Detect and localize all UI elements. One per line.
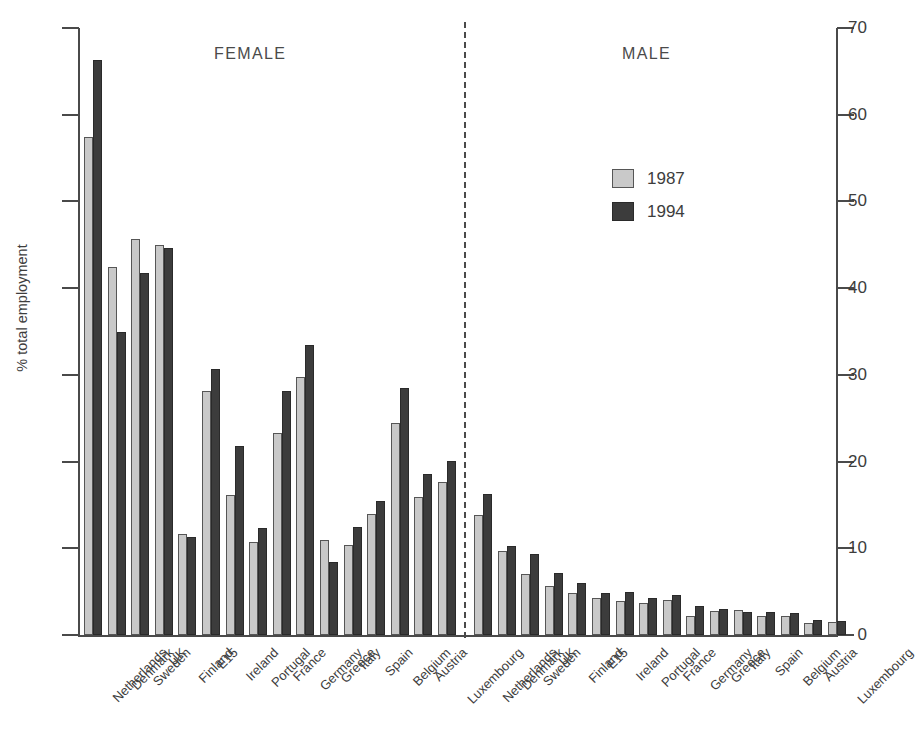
bar-male-netherlands-1994 <box>483 494 492 635</box>
bar-male-belgium-1994 <box>790 613 799 635</box>
bar-male-luxembourg-1994 <box>837 621 846 635</box>
bar-female-finland-1994 <box>187 537 196 635</box>
bar-female-uk-1987 <box>155 245 164 635</box>
bar-male-austria-1987 <box>804 623 813 635</box>
legend-label-1987: 1987 <box>647 169 685 189</box>
legend-label-1994: 1994 <box>647 202 685 222</box>
bar-female-spain-1994 <box>376 501 385 635</box>
bar-male-e15-1994 <box>601 593 610 635</box>
bar-female-portugal-1994 <box>258 528 267 635</box>
bar-male-portugal-1987 <box>639 603 648 635</box>
bar-female-france-1994 <box>282 391 291 635</box>
bar-male-finland-1987 <box>568 593 577 635</box>
bar-female-greece-1987 <box>320 540 329 635</box>
bar-male-germany-1994 <box>695 606 704 635</box>
bar-female-germany-1987 <box>296 377 305 635</box>
bar-male-uk-1994 <box>554 573 563 635</box>
bar-female-luxembourg-1994 <box>447 461 456 635</box>
bar-female-denmark-1994 <box>117 332 126 635</box>
bar-female-belgium-1994 <box>400 388 409 635</box>
legend-item-1987: 1987 <box>612 162 685 195</box>
bar-male-netherlands-1987 <box>474 515 483 635</box>
bar-female-germany-1994 <box>305 345 314 635</box>
legend-swatch-1987 <box>612 169 634 188</box>
bar-female-spain-1987 <box>367 514 376 635</box>
bar-female-greece-1994 <box>329 562 338 635</box>
bar-male-germany-1987 <box>686 616 695 635</box>
bar-female-sweden-1994 <box>140 273 149 635</box>
bar-female-italy-1994 <box>353 527 362 635</box>
bar-female-sweden-1987 <box>131 239 140 635</box>
bar-male-denmark-1987 <box>498 551 507 635</box>
bar-female-luxembourg-1987 <box>438 482 447 635</box>
legend-item-1994: 1994 <box>612 195 685 228</box>
bar-female-e15-1987 <box>202 391 211 635</box>
bar-male-france-1994 <box>672 595 681 635</box>
bar-male-belgium-1987 <box>781 616 790 635</box>
bar-female-finland-1987 <box>178 534 187 635</box>
bar-male-ireland-1994 <box>625 592 634 635</box>
bar-female-france-1987 <box>273 433 282 635</box>
bar-male-italy-1987 <box>734 610 743 635</box>
bar-male-france-1987 <box>663 600 672 635</box>
bar-female-ireland-1994 <box>235 446 244 635</box>
bar-female-netherlands-1994 <box>93 60 102 635</box>
bar-female-austria-1987 <box>414 497 423 635</box>
bar-male-austria-1994 <box>813 620 822 635</box>
bar-male-spain-1987 <box>757 616 766 635</box>
bar-female-denmark-1987 <box>108 267 117 635</box>
bar-male-denmark-1994 <box>507 546 516 635</box>
bar-male-finland-1994 <box>577 583 586 635</box>
bar-male-e15-1987 <box>592 598 601 635</box>
bar-male-sweden-1987 <box>521 574 530 635</box>
bar-male-greece-1987 <box>710 611 719 635</box>
bar-female-portugal-1987 <box>249 542 258 635</box>
bar-male-italy-1994 <box>743 612 752 635</box>
bar-female-uk-1994 <box>164 248 173 635</box>
bar-male-portugal-1994 <box>648 598 657 635</box>
bar-female-italy-1987 <box>344 545 353 635</box>
bar-female-ireland-1987 <box>226 495 235 635</box>
legend-swatch-1994 <box>612 202 634 221</box>
bar-female-netherlands-1987 <box>84 137 93 635</box>
bar-female-e15-1994 <box>211 369 220 635</box>
bar-male-spain-1994 <box>766 612 775 635</box>
bar-female-belgium-1987 <box>391 423 400 635</box>
bar-male-uk-1987 <box>545 586 554 635</box>
bar-male-luxembourg-1987 <box>828 622 837 635</box>
bar-male-sweden-1994 <box>530 554 539 636</box>
legend: 19871994 <box>612 162 685 228</box>
bar-male-greece-1994 <box>719 609 728 635</box>
bar-female-austria-1994 <box>423 474 432 635</box>
bar-male-ireland-1987 <box>616 601 625 635</box>
